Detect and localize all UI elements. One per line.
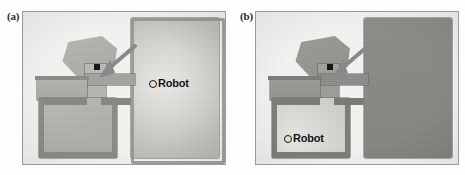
robot-label-b: Robot <box>293 133 324 144</box>
wall-left-arm-top-a <box>35 76 89 80</box>
wall-lower-left-left-a <box>39 98 44 158</box>
panel-b-label: (b) <box>240 10 253 22</box>
wall-lower-left-bottom-b <box>272 152 350 158</box>
wall-right-room-a <box>131 18 225 164</box>
wall-lower-left-bottom-a <box>39 152 117 158</box>
panel-a-frame: Robot <box>22 11 226 165</box>
wall-lower-left-right-a <box>112 105 117 158</box>
region-left-arm-a <box>37 78 87 100</box>
region-right-room-b <box>364 18 452 158</box>
panel-b-frame: Robot <box>255 11 459 165</box>
region-lower-left-room-b <box>272 98 350 158</box>
wall-lower-left-top-a <box>39 98 87 105</box>
robot-label-a: Robot <box>158 78 189 89</box>
region-lower-left-room-a <box>39 98 117 158</box>
annotation-arrow-b <box>326 42 372 86</box>
annotation-arrow-a <box>93 42 139 86</box>
wall-lower-left-top-right-a <box>101 98 131 105</box>
panel-b-map: Robot <box>256 12 458 164</box>
panel-a-map: Robot <box>23 12 225 164</box>
wall-lower-left-right-b <box>345 105 350 158</box>
robot-circle-icon-a <box>149 80 157 88</box>
region-left-arm-b <box>270 78 320 100</box>
panel-a: (a) <box>0 0 232 175</box>
robot-circle-icon-b <box>284 135 292 143</box>
panel-b: (b) <box>233 0 465 175</box>
figure-container: (a) <box>0 0 465 175</box>
wall-lower-left-top-right-b <box>334 98 364 105</box>
wall-lower-left-top-b <box>272 98 320 105</box>
robot-marker-b: Robot <box>284 133 324 144</box>
robot-marker-a: Robot <box>149 78 189 89</box>
panel-a-label: (a) <box>7 10 19 22</box>
wall-left-arm-top-b <box>268 76 322 80</box>
wall-lower-left-left-b <box>272 98 277 158</box>
